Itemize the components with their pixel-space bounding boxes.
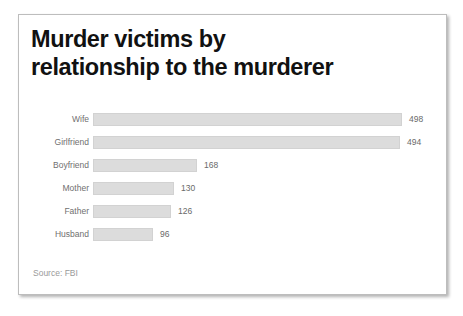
- bar-value-label: 130: [181, 182, 195, 195]
- bar-value-label: 168: [204, 159, 218, 172]
- infographic-card: Murder victims by relationship to the mu…: [18, 14, 447, 295]
- bar-chart-plot: Wife 498 Girlfriend 494 Boyfriend 168 Mo…: [19, 113, 448, 258]
- bar-track: 126: [93, 205, 448, 218]
- bar-value-label: 126: [178, 205, 192, 218]
- page-title: Murder victims by relationship to the mu…: [31, 25, 431, 81]
- bar-value-label: 96: [160, 228, 169, 241]
- bar-row: Father 126: [19, 205, 448, 218]
- bar-track: 498: [93, 113, 448, 126]
- title-line-1: Murder victims by: [31, 25, 431, 53]
- bar-fill: [93, 113, 402, 126]
- bar-track: 168: [93, 159, 448, 172]
- bar-row: Boyfriend 168: [19, 159, 448, 172]
- bar-fill: [93, 159, 197, 172]
- bar-category-label: Father: [19, 205, 89, 218]
- bar-row: Mother 130: [19, 182, 448, 195]
- bar-fill: [93, 136, 400, 149]
- bar-category-label: Boyfriend: [19, 159, 89, 172]
- title-line-2: relationship to the murderer: [31, 53, 431, 81]
- bar-track: 96: [93, 228, 448, 241]
- bar-row: Girlfriend 494: [19, 136, 448, 149]
- bar-category-label: Wife: [19, 113, 89, 126]
- bar-fill: [93, 182, 174, 195]
- bar-row: Wife 498: [19, 113, 448, 126]
- bar-value-label: 498: [409, 113, 423, 126]
- bar-track: 494: [93, 136, 448, 149]
- bar-category-label: Girlfriend: [19, 136, 89, 149]
- bar-fill: [93, 228, 153, 241]
- bar-category-label: Husband: [19, 228, 89, 241]
- bar-track: 130: [93, 182, 448, 195]
- bar-row: Husband 96: [19, 228, 448, 241]
- source-note: Source: FBI: [33, 268, 78, 278]
- bar-category-label: Mother: [19, 182, 89, 195]
- bar-fill: [93, 205, 171, 218]
- bar-value-label: 494: [407, 136, 421, 149]
